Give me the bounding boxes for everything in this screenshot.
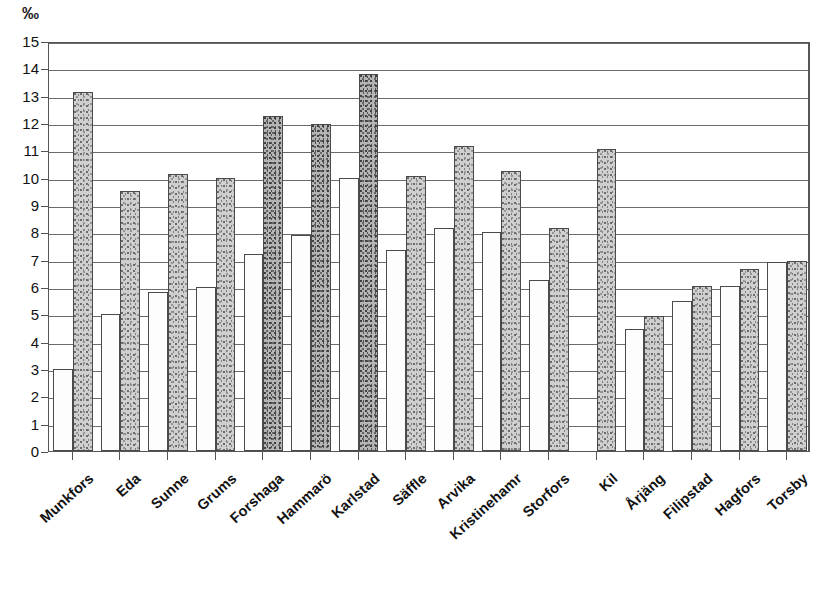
bar-series-b-arvika — [454, 146, 474, 451]
y-tick-mark — [41, 397, 48, 398]
bars-layer — [49, 43, 808, 451]
x-tick-label-karlstad: Karlstad — [328, 470, 382, 521]
y-tick-mark — [41, 288, 48, 289]
x-tick-label-sunne: Sunne — [148, 470, 192, 512]
bar-series-b-säffle — [406, 176, 426, 451]
x-tick-mark — [358, 452, 359, 460]
y-tick-label: 2 — [31, 389, 39, 404]
bar-series-a-karlstad — [339, 178, 359, 451]
y-tick-mark — [41, 370, 48, 371]
y-tick-label: 14 — [22, 61, 39, 76]
x-tick-label-hagfors: Hagfors — [711, 470, 763, 519]
bar-series-a-munkfors — [53, 369, 73, 451]
y-tick-label: 3 — [31, 362, 39, 377]
bar-series-b-storfors — [549, 228, 569, 451]
bar-series-b-sunne — [168, 174, 188, 451]
y-tick-mark — [41, 233, 48, 234]
x-tick-mark — [739, 452, 740, 460]
y-tick-label: 11 — [23, 143, 39, 158]
x-tick-label-kil: Kil — [596, 470, 621, 494]
x-tick-label-grums: Grums — [194, 470, 240, 514]
bar-series-a-säffle — [386, 250, 406, 451]
bar-series-b-hammarö — [311, 124, 331, 451]
bar-series-b-hagfors — [740, 269, 760, 451]
bar-series-b-torsby — [787, 261, 807, 451]
y-tick-label: 6 — [31, 280, 39, 295]
x-tick-mark — [405, 452, 406, 460]
y-tick-label: 15 — [22, 34, 39, 49]
bar-series-b-karlstad — [359, 74, 379, 451]
bar-series-a-sunne — [148, 292, 168, 451]
y-tick-mark — [41, 343, 48, 344]
y-axis: 0123456789101112131415 — [0, 0, 48, 470]
bar-series-a-årjäng — [625, 329, 645, 451]
y-tick-mark — [41, 206, 48, 207]
bar-series-a-forshaga — [244, 254, 264, 451]
bar-series-b-årjäng — [644, 316, 664, 451]
bar-series-a-hagfors — [720, 286, 740, 451]
y-tick-mark — [41, 425, 48, 426]
x-axis: MunkforsEdaSunneGrumsForshagaHammaröKarl… — [0, 452, 836, 594]
x-tick-mark — [500, 452, 501, 460]
x-tick-label-eda: Eda — [113, 470, 144, 500]
bar-series-a-kristinehamr — [482, 232, 502, 451]
y-tick-label: 13 — [22, 89, 39, 104]
x-tick-mark — [643, 452, 644, 460]
x-tick-mark — [215, 452, 216, 460]
bar-series-a-hammarö — [291, 235, 311, 451]
y-tick-mark — [41, 315, 48, 316]
bar-series-b-forshaga — [263, 116, 283, 451]
y-tick-mark — [41, 42, 48, 43]
y-tick-label: 12 — [22, 116, 39, 131]
y-tick-mark — [41, 151, 48, 152]
y-tick-mark — [41, 179, 48, 180]
bar-series-b-grums — [216, 178, 236, 451]
bar-series-a-filipstad — [672, 301, 692, 451]
bar-series-a-grums — [196, 287, 216, 451]
bar-series-b-munkfors — [73, 92, 93, 451]
bar-series-a-arvika — [434, 228, 454, 451]
y-tick-mark — [41, 97, 48, 98]
x-tick-label-torsby: Torsby — [765, 470, 811, 514]
x-tick-mark — [167, 452, 168, 460]
bar-series-b-kristinehamr — [501, 171, 521, 451]
x-tick-mark — [453, 452, 454, 460]
x-tick-label-årjäng: Årjäng — [623, 470, 668, 513]
plot-area — [48, 42, 810, 452]
y-tick-label: 4 — [31, 335, 39, 350]
x-tick-label-filipstad: Filipstad — [660, 470, 716, 522]
bar-series-a-torsby — [767, 262, 787, 451]
y-tick-label: 10 — [22, 171, 39, 186]
bar-chart: ‰ 0123456789101112131415 MunkforsEdaSunn… — [0, 0, 836, 594]
y-tick-label: 9 — [31, 198, 39, 213]
bar-series-b-kil — [597, 149, 617, 451]
x-tick-mark — [72, 452, 73, 460]
x-tick-mark — [786, 452, 787, 460]
bar-series-b-filipstad — [692, 286, 712, 451]
x-tick-label-munkfors: Munkfors — [37, 470, 97, 526]
x-tick-mark — [119, 452, 120, 460]
y-tick-mark — [41, 69, 48, 70]
y-tick-label: 8 — [31, 225, 39, 240]
bar-series-a-storfors — [529, 280, 549, 451]
x-tick-label-arvika: Arvika — [433, 470, 477, 512]
x-tick-mark — [548, 452, 549, 460]
x-tick-label-storfors: Storfors — [520, 470, 573, 520]
x-tick-mark — [596, 452, 597, 460]
x-tick-mark — [310, 452, 311, 460]
y-tick-label: 7 — [31, 253, 39, 268]
bar-series-b-eda — [120, 191, 140, 451]
y-tick-label: 5 — [31, 307, 39, 322]
x-tick-label-säffle: Säffle — [389, 470, 430, 509]
x-tick-mark — [691, 452, 692, 460]
y-tick-label: 1 — [31, 417, 39, 432]
x-tick-mark — [262, 452, 263, 460]
y-tick-mark — [41, 261, 48, 262]
bar-series-a-eda — [101, 314, 121, 451]
y-tick-mark — [41, 124, 48, 125]
